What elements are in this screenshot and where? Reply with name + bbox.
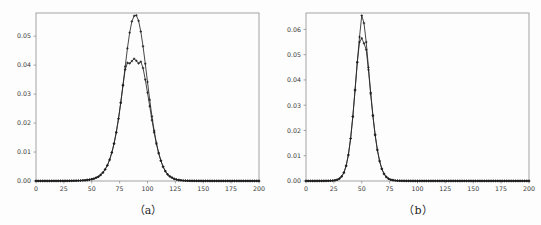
data-point-marker-b bbox=[376, 149, 379, 152]
data-point-marker-a bbox=[128, 31, 131, 34]
y-tick-label-b: 0.02 bbox=[287, 127, 301, 134]
y-tick-label-b: 0.03 bbox=[287, 102, 301, 109]
data-point-marker-a bbox=[119, 102, 122, 105]
data-point-marker-b bbox=[398, 180, 401, 183]
data-point-marker-b bbox=[309, 180, 312, 183]
data-point-marker-a bbox=[222, 180, 225, 183]
data-point-marker-b bbox=[503, 180, 506, 183]
data-point-marker-a bbox=[70, 180, 73, 183]
data-point-marker-b bbox=[452, 180, 455, 183]
data-point-marker-a bbox=[189, 180, 192, 183]
axes-a bbox=[34, 13, 259, 183]
y-tick-label-b: 0.06 bbox=[287, 26, 301, 33]
data-point-marker-b bbox=[519, 180, 522, 183]
data-point-marker-b bbox=[352, 115, 355, 118]
data-point-marker-a bbox=[204, 180, 207, 183]
x-tick-label-a: 25 bbox=[60, 185, 68, 192]
data-point-marker-b bbox=[365, 41, 368, 44]
data-point-marker-a bbox=[211, 180, 214, 183]
data-point-marker-b bbox=[505, 180, 508, 183]
data-point-marker-b bbox=[396, 179, 399, 182]
data-point-marker-a bbox=[198, 180, 201, 183]
xtick-labels-a: 0255075100125150175200 bbox=[34, 185, 265, 192]
data-point-marker-b bbox=[410, 180, 413, 183]
data-point-marker-b bbox=[320, 180, 323, 183]
data-point-marker-b bbox=[416, 180, 419, 183]
data-point-marker-b bbox=[528, 180, 531, 183]
panel-caption-a: （a） bbox=[134, 204, 163, 217]
data-point-marker-a bbox=[258, 180, 261, 183]
data-point-marker-b bbox=[311, 180, 314, 183]
data-point-marker-a bbox=[244, 180, 247, 183]
y-tick-label-b: 0.00 bbox=[287, 177, 301, 184]
data-point-marker-b bbox=[514, 180, 517, 183]
y-tick-label-a: 0.03 bbox=[17, 90, 31, 97]
data-point-marker-b bbox=[439, 180, 442, 183]
data-point-marker-b bbox=[414, 180, 417, 183]
data-point-marker-b bbox=[470, 180, 473, 183]
series-curve-1-high-peak-b bbox=[305, 14, 531, 182]
data-point-marker-a bbox=[146, 81, 149, 84]
data-point-marker-a bbox=[200, 180, 203, 183]
data-point-marker-a bbox=[117, 117, 120, 120]
data-point-marker-a bbox=[37, 180, 40, 183]
data-point-marker-b bbox=[374, 134, 377, 137]
data-point-marker-a bbox=[215, 180, 218, 183]
data-point-marker-b bbox=[381, 168, 384, 171]
data-point-marker-a bbox=[137, 20, 140, 23]
data-point-marker-b bbox=[423, 180, 426, 183]
data-point-marker-b bbox=[349, 137, 352, 140]
x-tick-label-a: 175 bbox=[225, 185, 237, 192]
ytick-labels-a: 0.000.010.020.030.040.05 bbox=[17, 32, 31, 184]
data-point-marker-a bbox=[91, 178, 94, 181]
data-point-marker-a bbox=[209, 180, 212, 183]
data-point-marker-a bbox=[44, 180, 47, 183]
data-point-marker-a bbox=[220, 180, 223, 183]
data-point-marker-b bbox=[485, 180, 488, 183]
y-tick-label-a: 0.01 bbox=[17, 148, 31, 155]
chart-panel-a: 0255075100125150175200 0.000.010.020.030… bbox=[0, 0, 270, 225]
plot-svg-b: 0255075100125150175200 0.000.010.020.030… bbox=[270, 0, 540, 225]
data-point-marker-a bbox=[251, 180, 254, 183]
data-point-marker-a bbox=[122, 84, 125, 87]
data-point-marker-a bbox=[186, 180, 189, 183]
data-point-marker-a bbox=[75, 179, 78, 182]
x-tick-label-a: 125 bbox=[169, 185, 181, 192]
data-point-marker-a bbox=[77, 179, 80, 182]
data-point-marker-a bbox=[50, 180, 53, 183]
data-point-marker-b bbox=[474, 180, 477, 183]
data-point-marker-b bbox=[425, 180, 428, 183]
series-line-a bbox=[36, 59, 259, 181]
data-point-marker-b bbox=[418, 180, 421, 183]
data-point-marker-a bbox=[46, 180, 49, 183]
axes-b bbox=[304, 13, 529, 183]
data-point-marker-a bbox=[184, 179, 187, 182]
data-point-marker-a bbox=[227, 180, 230, 183]
data-point-marker-a bbox=[140, 30, 143, 33]
data-point-marker-b bbox=[441, 180, 444, 183]
data-point-marker-a bbox=[233, 180, 236, 183]
data-point-marker-b bbox=[369, 93, 372, 96]
data-point-marker-b bbox=[447, 180, 450, 183]
data-point-marker-a bbox=[218, 180, 221, 183]
data-point-marker-a bbox=[142, 67, 145, 70]
x-tick-label-b: 150 bbox=[467, 185, 479, 192]
x-tick-label-b: 175 bbox=[495, 185, 507, 192]
data-point-marker-b bbox=[403, 180, 406, 183]
data-point-marker-b bbox=[463, 180, 466, 183]
x-tick-label-a: 50 bbox=[88, 185, 96, 192]
x-tick-label-a: 0 bbox=[34, 185, 38, 192]
data-point-marker-b bbox=[347, 154, 350, 157]
x-tick-label-b: 0 bbox=[304, 185, 308, 192]
data-point-marker-a bbox=[66, 180, 69, 183]
data-point-marker-a bbox=[213, 180, 216, 183]
plot-frame-a bbox=[36, 13, 259, 181]
data-point-marker-b bbox=[436, 180, 439, 183]
data-point-marker-b bbox=[512, 180, 515, 183]
data-point-marker-b bbox=[523, 180, 526, 183]
data-point-marker-a bbox=[113, 142, 116, 145]
data-point-marker-b bbox=[526, 180, 529, 183]
data-point-marker-b bbox=[327, 180, 330, 183]
data-point-marker-a bbox=[108, 159, 111, 162]
series-line-b bbox=[306, 38, 529, 181]
